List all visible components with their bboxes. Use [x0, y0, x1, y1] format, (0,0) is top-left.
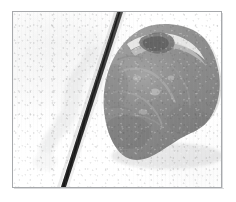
frame-shadow-bottom [14, 188, 224, 189]
knife-blade [13, 12, 221, 187]
image-canvas: Raw meat cut with knife Desaturated gray… [0, 0, 236, 202]
frame-shadow-right [222, 13, 223, 189]
photo-frame [12, 11, 222, 188]
